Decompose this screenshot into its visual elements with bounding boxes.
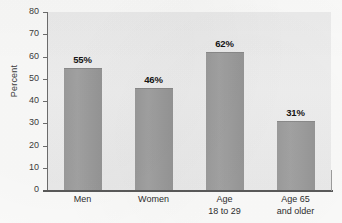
bar[interactable] (206, 52, 244, 190)
x-axis-label: Age18 to 29 (185, 193, 265, 217)
x-axis-label: Age 65and older (256, 193, 336, 217)
y-tick-label: 60 (29, 51, 39, 61)
x-axis-label: Women (114, 193, 194, 205)
right-axis-stub (331, 170, 332, 191)
x-axis-label: Men (43, 193, 123, 205)
bar-chart: Percent 01020304050607080 55%46%62%31% M… (0, 0, 342, 223)
bar-group: 55% (64, 12, 102, 190)
x-label-line2: and older (256, 205, 336, 217)
x-axis-labels: MenWomenAge18 to 29Age 65and older (47, 193, 331, 223)
bar-value-label: 31% (286, 107, 304, 118)
y-tick-label: 70 (29, 28, 39, 38)
y-tick-label: 0 (34, 184, 39, 194)
bar-group: 46% (135, 12, 173, 190)
y-axis-ticks: 01020304050607080 (0, 12, 47, 190)
y-tick-label: 50 (29, 73, 39, 83)
bars-layer: 55%46%62%31% (47, 12, 331, 190)
x-axis-line (43, 190, 333, 192)
x-label-line1: Men (74, 194, 92, 204)
bar-value-label: 55% (73, 54, 91, 65)
x-label-line2: 18 to 29 (185, 205, 265, 217)
y-tick-label: 10 (29, 162, 39, 172)
bar[interactable] (64, 68, 102, 190)
bar-value-label: 46% (144, 74, 162, 85)
y-tick-label: 30 (29, 117, 39, 127)
x-label-line1: Women (138, 194, 169, 204)
bar-group: 62% (206, 12, 244, 190)
bar-group: 31% (277, 12, 315, 190)
bar-value-label: 62% (215, 38, 233, 49)
y-tick-label: 40 (29, 95, 39, 105)
bar[interactable] (135, 88, 173, 190)
x-label-line1: Age 65 (281, 194, 310, 204)
x-label-line1: Age (216, 194, 232, 204)
y-tick-label: 80 (29, 6, 39, 16)
bar[interactable] (277, 121, 315, 190)
y-tick-label: 20 (29, 140, 39, 150)
